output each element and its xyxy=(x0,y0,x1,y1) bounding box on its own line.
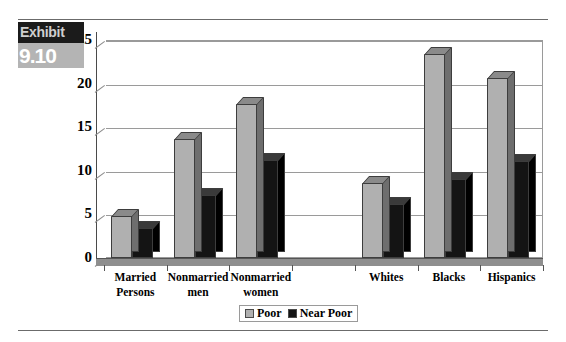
bar-side xyxy=(529,155,536,252)
y-tick-label-15: 15 xyxy=(64,118,92,135)
bar-poor xyxy=(487,78,508,259)
x-axis-category-line: women xyxy=(223,285,298,300)
y-tick-label-10: 10 xyxy=(64,162,92,179)
bar-poor xyxy=(424,54,445,258)
legend-label: Poor xyxy=(257,306,282,321)
near-poor-swatch xyxy=(288,309,297,318)
bar-group xyxy=(292,40,355,258)
exhibit-word-label: Exhibit xyxy=(18,22,84,43)
bar-face xyxy=(362,183,383,258)
bar-group xyxy=(167,40,230,258)
bar-side xyxy=(383,177,390,252)
x-axis-category-label: Nonmarriedwomen xyxy=(223,270,298,300)
bar-group xyxy=(104,40,167,258)
x-axis-category-line: Nonmarried xyxy=(223,270,298,285)
x-axis-category-line: Hispanics xyxy=(474,270,549,285)
chart-legend: PoorNear Poor xyxy=(239,305,358,322)
bottom-divider-rule xyxy=(18,330,548,331)
bar-group xyxy=(480,40,543,258)
bar-side xyxy=(445,48,452,252)
bar-poor xyxy=(236,104,257,258)
bar-side xyxy=(216,189,223,252)
legend-item: Near Poor xyxy=(288,306,353,321)
bar-chart: 0510152025 MarriedPersonsNonmarriedmenNo… xyxy=(0,0,566,342)
x-axis-category-label: Hispanics xyxy=(474,270,549,285)
bar-side xyxy=(132,210,139,252)
exhibit-badge: Exhibit 9.10 xyxy=(18,22,84,68)
bar-side xyxy=(257,98,264,252)
bar-poor xyxy=(111,216,132,258)
bar-poor xyxy=(174,139,195,258)
bar-face xyxy=(424,54,445,258)
bar-side xyxy=(195,133,202,252)
bar-group xyxy=(229,40,292,258)
bar-face xyxy=(487,78,508,259)
bar-face xyxy=(174,139,195,258)
bar-side xyxy=(466,173,473,252)
poor-swatch xyxy=(245,309,254,318)
bar-side xyxy=(404,198,411,252)
bar-side xyxy=(508,72,515,253)
y-tick-label-0: 0 xyxy=(64,249,92,266)
y-axis-line xyxy=(96,32,97,259)
bar-poor xyxy=(362,183,383,258)
bars-layer xyxy=(104,40,543,258)
bar-group xyxy=(355,40,418,258)
bar-group xyxy=(418,40,481,258)
legend-label: Near Poor xyxy=(300,306,353,321)
y-tick-label-20: 20 xyxy=(64,75,92,92)
bar-face xyxy=(236,104,257,258)
y-tick-label-5: 5 xyxy=(64,205,92,222)
legend-item: Poor xyxy=(245,306,282,321)
bar-face xyxy=(111,216,132,258)
exhibit-number-label: 9.10 xyxy=(18,43,84,68)
bar-side xyxy=(278,154,285,252)
